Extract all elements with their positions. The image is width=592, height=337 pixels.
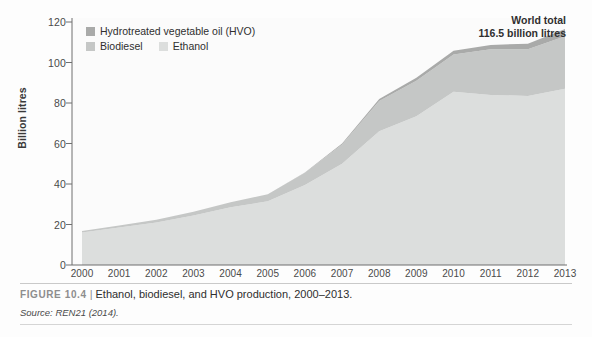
world-total-annotation: World total 116.5 billion litres [478,14,566,40]
legend-label-biodiesel: Biodiesel [100,41,143,52]
annotation-line-1: World total [478,14,566,27]
figure-container: 020406080100120 Billion litres 200020012… [0,0,592,337]
y-axis-labels: 020406080100120 [28,0,66,278]
figure-source: Source: REN21 (2014). [20,307,119,318]
caption-divider-bottom [20,324,572,325]
annotation-line-2: 116.5 billion litres [478,27,566,40]
area-ethanol [82,89,565,265]
legend-item-hvo: Hydrotreated vegetable oil (HVO) [86,26,255,37]
legend-swatch-biodiesel [86,42,95,51]
y-tick-label: 40 [32,178,66,190]
legend-swatch-hvo [86,27,95,36]
chart-area: 020406080100120 Billion litres 200020012… [0,0,592,278]
y-tick-label: 60 [32,138,66,150]
legend-label-ethanol: Ethanol [173,41,209,52]
y-tick-marks [66,22,72,265]
legend-swatch-ethanol [159,42,168,51]
legend-item-ethanol: Ethanol [159,41,209,52]
y-tick-label: 100 [32,57,66,69]
x-axis-labels: 2000200120022003200420052006200720082009… [0,268,592,284]
y-axis-title: Billion litres [16,48,28,188]
area-series-group [82,29,565,265]
legend-row-2: Biodiesel Ethanol [86,41,271,52]
legend-label-hvo: Hydrotreated vegetable oil (HVO) [100,26,255,37]
figure-title: Ethanol, biodiesel, and HVO production, … [95,288,352,300]
figure-caption: FIGURE 10.4|Ethanol, biodiesel, and HVO … [20,288,576,300]
y-tick-label: 80 [32,97,66,109]
y-tick-label: 20 [32,219,66,231]
legend-row-1: Hydrotreated vegetable oil (HVO) [86,26,271,37]
caption-divider-top [20,283,572,284]
legend-item-biodiesel: Biodiesel [86,41,143,52]
chart-legend: Hydrotreated vegetable oil (HVO) Biodies… [86,26,271,56]
x-tick-label-2013: 2013 [542,268,588,279]
y-tick-label: 120 [32,16,66,28]
figure-number: FIGURE 10.4 [20,289,87,300]
